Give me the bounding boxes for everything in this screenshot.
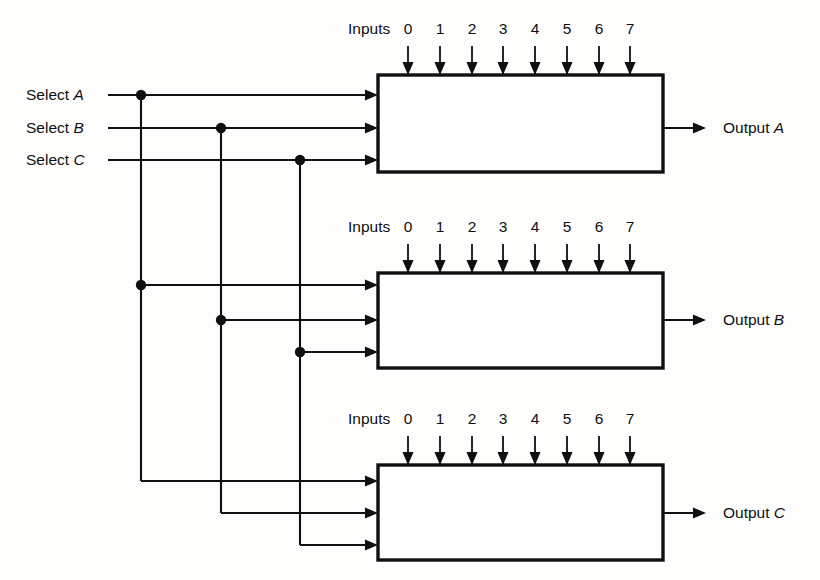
mux-a-junction-dot-B xyxy=(216,123,226,133)
mux-c-input-arrow-6 xyxy=(593,452,604,465)
mux-a-input-arrow-1 xyxy=(434,62,445,75)
mux-c-input-number-2: 2 xyxy=(468,410,477,427)
mux-b-input-number-0: 0 xyxy=(404,218,413,235)
mux-a-select-arrow-A xyxy=(365,89,378,100)
mux-a-input-arrow-7 xyxy=(624,62,635,75)
mux-a-input-number-5: 5 xyxy=(563,20,572,37)
mux-b-input-arrow-3 xyxy=(497,260,508,273)
mux-a-input-number-3: 3 xyxy=(499,20,508,37)
mux-b-output-label: Output B xyxy=(723,311,784,328)
mux-b-select-arrow-A xyxy=(365,279,378,290)
mux-c-inputs-label: Inputs xyxy=(348,410,390,427)
mux-c-input-number-0: 0 xyxy=(404,410,413,427)
mux-b-inputs-label: Inputs xyxy=(348,218,390,235)
mux-b-junction-dot-C xyxy=(295,347,305,357)
mux-b-input-arrow-6 xyxy=(593,260,604,273)
mux-b-select-arrow-C xyxy=(365,346,378,357)
select-label-A: Select A xyxy=(26,86,84,103)
mux-b-junction-dot-A xyxy=(136,280,146,290)
mux-b-input-arrow-4 xyxy=(529,260,540,273)
mux-a-inputs-label: Inputs xyxy=(348,20,390,37)
mux-b-input-number-5: 5 xyxy=(563,218,572,235)
mux-a-input-arrow-6 xyxy=(593,62,604,75)
mux-a-input-number-4: 4 xyxy=(531,20,540,37)
mux-a-input-arrow-0 xyxy=(402,62,413,75)
mux-b-input-number-6: 6 xyxy=(595,218,604,235)
mux-b-input-number-4: 4 xyxy=(531,218,540,235)
mux-c-input-number-4: 4 xyxy=(531,410,540,427)
mux-c-input-arrow-5 xyxy=(561,452,572,465)
mux-a-input-arrow-3 xyxy=(497,62,508,75)
mux-a-input-arrow-2 xyxy=(466,62,477,75)
mux-c-input-arrow-4 xyxy=(529,452,540,465)
mux-a-output-label: Output A xyxy=(723,119,784,136)
mux-c-output-arrow xyxy=(693,507,706,518)
mux-c-input-arrow-3 xyxy=(497,452,508,465)
mux-b-input-arrow-0 xyxy=(402,260,413,273)
select-label-B: Select B xyxy=(26,119,84,136)
mux-a-input-number-7: 7 xyxy=(626,20,635,37)
mux-b-junction-dot-B xyxy=(216,315,226,325)
mux-c-input-number-6: 6 xyxy=(595,410,604,427)
mux-a-select-arrow-C xyxy=(365,154,378,165)
mux-a-input-arrow-5 xyxy=(561,62,572,75)
mux-c-output-label: Output C xyxy=(723,504,786,521)
mux-box-layer xyxy=(378,75,663,560)
mux-c-input-arrow-0 xyxy=(402,452,413,465)
mux-c-input-arrow-1 xyxy=(434,452,445,465)
mux-a-junction-dot-C xyxy=(295,155,305,165)
mux-a-input-number-0: 0 xyxy=(404,20,413,37)
mux-b-input-arrow-5 xyxy=(561,260,572,273)
mux-c-input-number-3: 3 xyxy=(499,410,508,427)
mux-c-select-arrow-A xyxy=(365,475,378,486)
select-label-C: Select C xyxy=(26,151,85,168)
mux-c-input-number-7: 7 xyxy=(626,410,635,427)
mux-a-input-number-6: 6 xyxy=(595,20,604,37)
mux-c-select-arrow-B xyxy=(365,507,378,518)
mux-c-input-arrow-7 xyxy=(624,452,635,465)
mux-c-input-number-1: 1 xyxy=(436,410,445,427)
mux-b-output-arrow xyxy=(693,314,706,325)
mux-a-junction-dot-A xyxy=(136,90,146,100)
mux-b-input-number-1: 1 xyxy=(436,218,445,235)
mux-a-select-arrow-B xyxy=(365,122,378,133)
mux-c-input-arrow-2 xyxy=(466,452,477,465)
mux-b-input-number-3: 3 xyxy=(499,218,508,235)
mux-bus-diagram: Select ASelect BSelect CInputs01234567Ou… xyxy=(0,0,820,580)
mux-b-input-arrow-7 xyxy=(624,260,635,273)
mux-c-box xyxy=(378,465,663,560)
mux-c-input-number-5: 5 xyxy=(563,410,572,427)
mux-b-input-number-2: 2 xyxy=(468,218,477,235)
mux-a-input-number-1: 1 xyxy=(436,20,445,37)
mux-a-box xyxy=(378,75,663,172)
mux-c-select-arrow-C xyxy=(365,539,378,550)
mux-b-input-number-7: 7 xyxy=(626,218,635,235)
mux-b-input-arrow-1 xyxy=(434,260,445,273)
mux-b-select-arrow-B xyxy=(365,314,378,325)
mux-b-box xyxy=(378,273,663,368)
schematic-canvas: Select ASelect BSelect CInputs01234567Ou… xyxy=(0,0,820,580)
mux-b-input-arrow-2 xyxy=(466,260,477,273)
mux-a-output-arrow xyxy=(693,122,706,133)
mux-a-input-arrow-4 xyxy=(529,62,540,75)
mux-a-input-number-2: 2 xyxy=(468,20,477,37)
